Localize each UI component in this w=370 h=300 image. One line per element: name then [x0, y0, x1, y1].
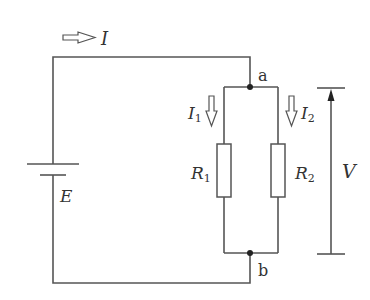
total-current-label: I [100, 28, 109, 49]
resistor-r2-icon [271, 144, 285, 197]
current-arrow-down-i1-icon [206, 96, 217, 126]
parallel-branch-wires [224, 87, 278, 253]
node-b-dot [247, 250, 253, 256]
resistor-r2-label: R2 [294, 163, 315, 185]
circuit-svg: E I a b R1 R2 I1 I2 V [0, 0, 370, 300]
resistor-r1-icon [217, 144, 231, 197]
current-arrow-right-icon [63, 32, 95, 43]
branch2-current-label: I2 [300, 103, 315, 125]
node-a-dot [247, 84, 253, 90]
node-b-label: b [258, 261, 268, 280]
voltage-arrow-icon [317, 88, 345, 254]
voltage-label: V [342, 160, 358, 182]
circuit-diagram: E I a b R1 R2 I1 I2 V [0, 0, 370, 300]
branch1-current-label: I1 [187, 103, 202, 125]
battery-icon [27, 164, 79, 175]
current-arrow-down-i2-icon [286, 96, 297, 126]
emf-label: E [59, 186, 73, 206]
resistor-r1-label: R1 [190, 163, 211, 185]
node-a-label: a [258, 66, 268, 85]
